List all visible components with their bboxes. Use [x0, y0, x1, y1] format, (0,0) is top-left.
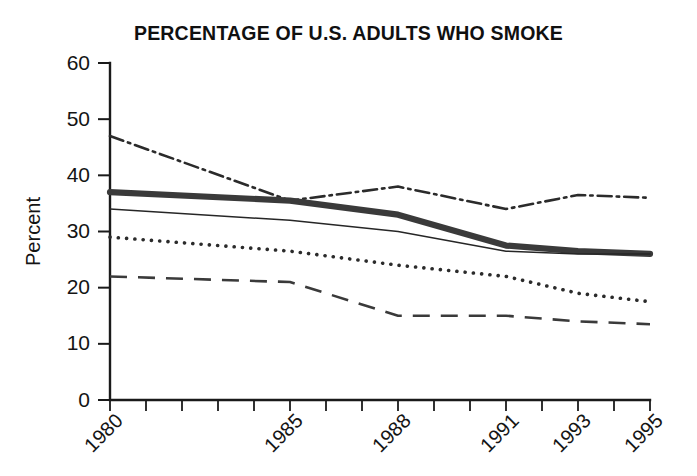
- x-tick-label: 1993: [548, 409, 595, 456]
- y-tick-label: 30: [67, 219, 90, 242]
- y-tick-label: 0: [78, 388, 90, 411]
- x-tick-label: 1988: [368, 409, 415, 456]
- x-tick-label: 1995: [620, 409, 667, 456]
- x-axis-ticks: [110, 400, 650, 411]
- chart-series-group: [110, 136, 650, 324]
- x-tick-label: 1980: [80, 409, 127, 456]
- x-tick-label: 1985: [260, 409, 307, 456]
- y-tick-label: 50: [67, 107, 90, 130]
- y-tick-label: 40: [67, 163, 90, 186]
- chart-figure: PERCENTAGE OF U.S. ADULTS WHO SMOKE 0102…: [0, 0, 697, 476]
- y-axis-tick-labels: 0102030405060: [67, 51, 90, 411]
- axis-spine: [110, 63, 650, 400]
- y-tick-label: 20: [67, 275, 90, 298]
- y-axis-ticks: [98, 63, 110, 400]
- y-tick-label: 60: [67, 51, 90, 74]
- y-tick-label: 10: [67, 331, 90, 354]
- y-axis-label: Percent: [22, 197, 44, 266]
- series-line-thick-solid-series: [110, 192, 650, 254]
- series-line-dotted-series: [110, 237, 650, 302]
- x-axis-tick-labels: 198019851988199119931995: [80, 409, 667, 456]
- series-line-thin-solid-series: [110, 209, 650, 254]
- series-line-dashed-series: [110, 276, 650, 324]
- x-tick-label: 1991: [476, 409, 523, 456]
- chart-plot-area: 0102030405060 198019851988199119931995 P…: [0, 0, 697, 476]
